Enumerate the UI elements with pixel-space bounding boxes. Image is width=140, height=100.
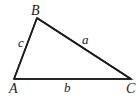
vertex-a-label: A	[8, 81, 18, 96]
side-a-label: a	[82, 32, 89, 47]
vertex-c-label: C	[126, 81, 136, 96]
triangle-diagram: B A C c a b	[0, 0, 140, 100]
side-c-label: c	[18, 35, 24, 50]
side-a-line	[37, 18, 131, 79]
vertex-b-label: B	[31, 3, 40, 18]
triangle-shape	[14, 18, 131, 79]
side-b-label: b	[64, 80, 71, 95]
